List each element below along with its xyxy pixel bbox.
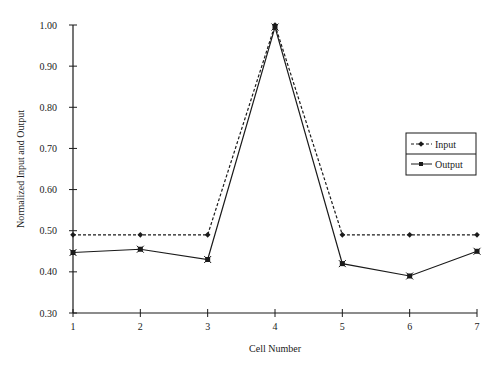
y-tick-label: 0.50 (40, 225, 58, 236)
square-marker-icon (419, 162, 423, 166)
y-axis-title: Normalized Input and Output (15, 110, 26, 228)
legend: Input Output (406, 133, 476, 175)
x-tick-label: 3 (205, 321, 210, 332)
x-axis: 1234567 (71, 309, 480, 332)
data-point (138, 232, 144, 238)
y-tick-label: 0.80 (40, 102, 58, 113)
y-tick-label: 0.90 (40, 61, 58, 72)
x-tick-label: 5 (340, 321, 345, 332)
y-axis: 0.300.400.500.600.700.800.901.00 (40, 20, 78, 319)
y-tick-label: 0.40 (40, 266, 58, 277)
x-axis-title: Cell Number (249, 343, 302, 354)
data-point (474, 232, 480, 238)
legend-label-output: Output (435, 159, 463, 170)
y-tick-label: 0.70 (40, 143, 58, 154)
data-point (205, 232, 211, 238)
legend-label-input: Input (435, 139, 456, 150)
y-tick-label: 0.60 (40, 184, 58, 195)
x-tick-label: 6 (407, 321, 412, 332)
y-tick-label: 1.00 (40, 20, 58, 31)
data-point (407, 232, 413, 238)
x-tick-label: 7 (475, 321, 480, 332)
x-tick-label: 4 (273, 321, 278, 332)
data-point (70, 232, 76, 238)
data-point (340, 232, 346, 238)
series-input (70, 22, 480, 237)
line-chart: 0.300.400.500.600.700.800.901.00 1234567… (0, 0, 499, 370)
y-tick-label: 0.30 (40, 308, 58, 319)
x-tick-label: 2 (138, 321, 143, 332)
x-tick-label: 1 (71, 321, 76, 332)
